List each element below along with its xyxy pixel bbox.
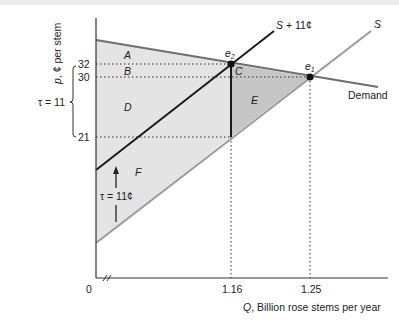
demand-label: Demand (348, 89, 388, 101)
y-tick-21: 21 (78, 131, 90, 143)
region-a-label: A (123, 49, 131, 61)
y-axis-label: p, ¢ per stem (51, 22, 63, 85)
equilibrium-e2-dot (227, 60, 234, 67)
chart: τ = 11¢ τ = 11 32 30 21 p, ¢ per stem 0 … (0, 0, 399, 323)
e1-label: e1 (305, 60, 315, 73)
equilibrium-e1-dot (306, 73, 313, 80)
deadweight-loss-area (231, 64, 310, 137)
region-f-label: F (135, 166, 142, 178)
y-tick-30: 30 (78, 71, 90, 83)
region-c-label: C (235, 65, 243, 77)
x-axis-var: Q (243, 301, 251, 313)
x-tick-1-25: 1.25 (301, 283, 322, 295)
y-axis-text: , ¢ per stem (51, 22, 63, 78)
e2-label: e2 (225, 47, 235, 60)
region-d-label: D (124, 101, 132, 113)
tax-arrow-label: τ = 11¢ (100, 190, 133, 202)
x-axis-text: , Billion rose stems per year (251, 301, 381, 313)
tax-brace-label: τ = 11 (38, 96, 65, 108)
supply-label: S (374, 18, 381, 30)
y-tick-32: 32 (78, 58, 90, 70)
x-axis-label: Q, Billion rose stems per year (243, 301, 381, 313)
tax-brace-icon (70, 66, 76, 137)
origin-label: 0 (86, 283, 92, 295)
x-tick-1-16: 1.16 (222, 283, 243, 295)
region-b-label: B (124, 65, 131, 77)
region-e-label: E (251, 94, 259, 106)
supply-tax-label: S + 11¢ (276, 19, 312, 31)
